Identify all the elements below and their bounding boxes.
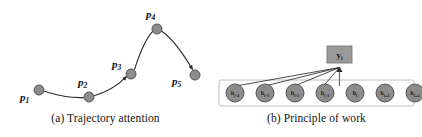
caption-panel-b: (b) Principle of work [211, 112, 422, 124]
trajectory-point-label-p2: p2 [77, 76, 88, 90]
principle-of-work-diagram: hi-4hi-3hi-2hi-1hihi+1hi+2 yi [211, 0, 422, 112]
trajectory-segment [135, 31, 154, 69]
figure-root: p1p2p3p4p5 (a) Trajectory attention hi-4… [0, 0, 422, 137]
trajectory-point-p3[interactable] [126, 69, 136, 79]
trajectory-segment [94, 77, 127, 96]
trajectory-point-label-p3: p3 [111, 58, 122, 72]
trajectory-attention-diagram: p1p2p3p4p5 [0, 0, 211, 112]
trajectory-point-p2[interactable] [84, 92, 94, 102]
trajectory-point-label-p5: p5 [171, 75, 182, 89]
trajectory-point-p5[interactable] [190, 70, 200, 80]
panel-principle-of-work: hi-4hi-3hi-2hi-1hihi+1hi+2 yi (b) Princi… [211, 0, 422, 137]
panel-trajectory-attention: p1p2p3p4p5 (a) Trajectory attention [0, 0, 211, 137]
trajectory-point-label-p1: p1 [19, 91, 29, 105]
trajectory-point-p1[interactable] [34, 85, 44, 95]
trajectory-segment [44, 91, 84, 97]
output-box-group: yi [327, 46, 352, 63]
trajectory-point-label-p4: p4 [145, 8, 156, 22]
trajectory-segment [162, 31, 193, 70]
trajectory-point-p4[interactable] [152, 24, 162, 34]
caption-panel-a: (a) Trajectory attention [0, 112, 211, 124]
